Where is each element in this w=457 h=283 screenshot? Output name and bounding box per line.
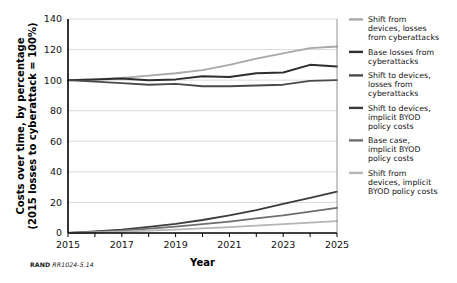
series-line-3 xyxy=(68,192,337,233)
series-group xyxy=(68,47,337,233)
y-axis-ticks: 020406080100120140 xyxy=(44,13,62,238)
legend: Shift fromdevices, lossesfrom cyberattac… xyxy=(349,15,439,196)
legend-label-0: Shift from xyxy=(368,15,406,24)
legend-label-1: cyberattacks xyxy=(368,57,418,66)
figure-credit: RAND RR1024-5.14 xyxy=(30,261,94,268)
x-tick-label: 2015 xyxy=(56,239,80,250)
y-tick-label: 100 xyxy=(44,75,62,86)
x-tick-label: 2017 xyxy=(110,239,134,250)
legend-label-2: Shift to devices, xyxy=(368,71,431,80)
series-line-2 xyxy=(68,80,337,86)
x-axis-ticks: 201520172019202120232025 xyxy=(56,233,349,250)
x-tick-label: 2021 xyxy=(217,239,241,250)
x-axis-title: Year xyxy=(189,257,215,268)
figure-container: 0204060801001201402015201720192021202320… xyxy=(0,0,457,283)
legend-item-1[interactable]: Base losses fromcyberattacks xyxy=(349,48,434,66)
y-tick-label: 40 xyxy=(50,166,62,177)
line-chart: 0204060801001201402015201720192021202320… xyxy=(0,0,457,283)
legend-label-3: implicit BYOD xyxy=(368,113,420,122)
x-tick-label: 2023 xyxy=(271,239,295,250)
x-tick-label: 2025 xyxy=(325,239,349,250)
legend-item-5[interactable]: Shift fromdevices, implicitBYOD policy c… xyxy=(349,169,438,196)
legend-label-0: from cyberattacks xyxy=(368,33,439,42)
legend-label-0: devices, losses xyxy=(368,24,427,33)
x-tick-label: 2019 xyxy=(164,239,188,250)
credit-org: RAND xyxy=(30,261,50,268)
y-tick-label: 80 xyxy=(50,105,62,116)
legend-item-2[interactable]: Shift to devices,losses fromcyberattacks xyxy=(349,71,431,98)
y-tick-label: 20 xyxy=(50,197,62,208)
legend-label-2: losses from xyxy=(368,80,413,89)
legend-label-4: implicit BYOD xyxy=(368,145,420,154)
legend-label-2: cyberattacks xyxy=(368,89,418,98)
y-tick-label: 140 xyxy=(44,13,62,24)
gridlines xyxy=(68,19,337,202)
series-line-0 xyxy=(68,47,337,81)
legend-item-4[interactable]: Base case,implicit BYODpolicy costs xyxy=(349,136,420,163)
y-tick-label: 60 xyxy=(50,136,62,147)
legend-label-5: devices, implicit xyxy=(368,178,431,187)
legend-label-4: Base case, xyxy=(368,136,410,145)
legend-label-1: Base losses from xyxy=(368,48,434,57)
series-line-5 xyxy=(68,221,337,233)
legend-label-5: BYOD policy costs xyxy=(368,187,438,196)
y-tick-label: 0 xyxy=(56,227,62,238)
legend-label-3: Shift to devices, xyxy=(368,104,431,113)
y-tick-label: 120 xyxy=(44,44,62,55)
y-axis-title: Costs over time, by percentage(2015 loss… xyxy=(15,22,38,229)
legend-label-5: Shift from xyxy=(368,169,406,178)
y-axis-title-line2: (2015 losses to cyberattack = 100%) xyxy=(27,22,38,229)
legend-label-4: policy costs xyxy=(368,154,414,163)
legend-item-3[interactable]: Shift to devices,implicit BYODpolicy cos… xyxy=(349,104,431,131)
legend-label-3: policy costs xyxy=(368,122,414,131)
y-axis-title-line1: Costs over time, by percentage xyxy=(15,37,26,214)
credit-number: RR1024-5.14 xyxy=(52,261,93,268)
legend-item-0[interactable]: Shift fromdevices, lossesfrom cyberattac… xyxy=(349,15,439,42)
